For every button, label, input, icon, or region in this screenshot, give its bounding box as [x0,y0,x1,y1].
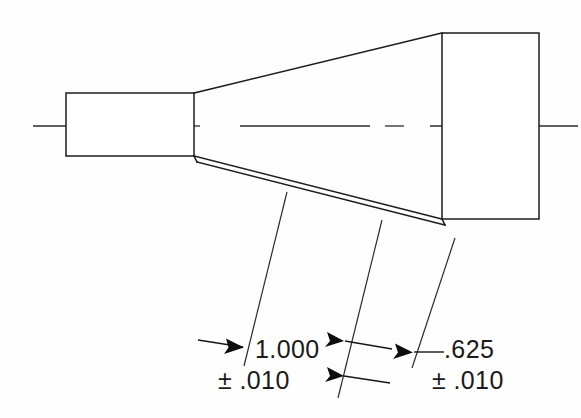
arrow-head-1000-right [325,332,344,347]
arrow-head-625-left [393,344,413,360]
lower-taper-line-offset [197,162,445,225]
extension-line-middle [338,220,382,398]
part-outline-group [66,33,539,225]
dim-tolerance-1000: ± .010 [218,366,290,394]
technical-drawing-canvas: 1.000 ± .010 .625 ± .010 [0,0,581,418]
dim-nominal-1000: 1.000 [255,335,320,363]
large-head-rectangle [442,33,539,219]
arrow-head-625-lower [325,367,344,382]
dim-line-1000-right [345,341,392,349]
dim-nominal-625: .625 [444,335,494,363]
drawing-svg: 1.000 ± .010 .625 ± .010 [0,0,581,418]
small-shank-rectangle [66,93,194,156]
lower-taper-line [194,156,442,219]
dim-tolerance-625: ± .010 [432,366,504,394]
dim-line-625-lower [344,376,390,383]
upper-taper-line [194,33,442,93]
arrow-head-1000-left [224,339,244,355]
